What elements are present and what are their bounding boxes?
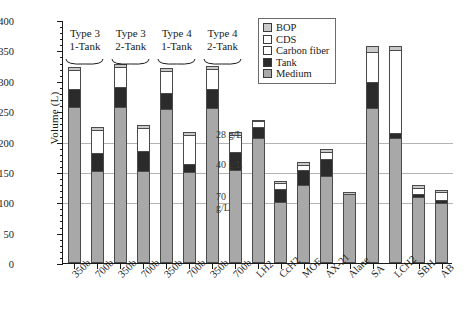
bar-segment-carbon-fiber — [390, 51, 401, 135]
y-axis-minor-tick — [60, 252, 64, 253]
bar-segment-tank — [115, 88, 126, 108]
bar-segment-medium — [436, 204, 447, 262]
x-axis-label-16: AB — [438, 262, 456, 280]
bar-segment-tank — [69, 90, 80, 108]
legend-swatch-icon — [263, 58, 272, 67]
group-title-line1: Type 4 — [208, 27, 238, 39]
y-axis-minor-tick — [60, 124, 64, 125]
y-axis-label: Volume (L) — [48, 58, 60, 178]
bar-segment-medium — [138, 172, 149, 262]
bar-segment-carbon-fiber — [184, 136, 195, 164]
legend-item-tank[interactable]: Tank — [263, 57, 329, 69]
legend-label: Carbon fiber — [276, 45, 329, 57]
bar-segment-medium — [253, 139, 264, 262]
bar-sa-13[interactable] — [366, 46, 379, 263]
y-axis-minor-tick — [60, 221, 64, 222]
y-axis-tick-mark — [57, 112, 63, 113]
bar-segment-medium — [298, 186, 309, 262]
density-annotation-28-g-L: 28 g/L — [216, 130, 242, 141]
y-axis-minor-tick — [60, 136, 64, 137]
bar-mof-10[interactable] — [297, 162, 310, 263]
y-axis-minor-tick — [60, 106, 64, 107]
y-axis-minor-tick — [60, 100, 64, 101]
legend-item-bop[interactable]: BOP — [263, 22, 329, 34]
bar-segment-tank — [321, 160, 332, 177]
bar-segment-carbon-fiber — [207, 70, 218, 90]
bar-segment-tank — [138, 152, 149, 172]
y-axis-tick-label: 200 — [0, 137, 14, 148]
bar-350b-0[interactable] — [68, 67, 81, 263]
bar-segment-medium — [275, 203, 286, 262]
y-axis-minor-tick — [60, 191, 64, 192]
y-axis-tick-mark — [57, 264, 63, 265]
bar-segment-medium — [115, 108, 126, 262]
group-brace-0 — [65, 54, 104, 63]
y-axis-minor-tick — [60, 70, 64, 71]
bar-cch2-9[interactable] — [274, 181, 287, 263]
bar-350b-4[interactable] — [160, 68, 173, 263]
y-axis-minor-tick — [60, 161, 64, 162]
bar-segment-medium — [69, 108, 80, 262]
bar-lh2-8[interactable] — [252, 120, 265, 263]
bar-700b-3[interactable] — [137, 125, 150, 263]
bar-segment-tank — [275, 190, 286, 203]
bar-segment-carbon-fiber — [253, 122, 264, 129]
y-axis-tick-mark — [57, 21, 63, 22]
bar-segment-medium — [230, 171, 241, 262]
bar-350b-2[interactable] — [114, 64, 127, 263]
y-axis-tick-mark — [57, 143, 63, 144]
y-axis-minor-tick — [60, 94, 64, 95]
bar-segment-medium — [184, 173, 195, 262]
bar-segment-carbon-fiber — [115, 68, 126, 87]
bar-segment-tank — [161, 94, 172, 110]
bar-segment-medium — [344, 195, 355, 262]
bar-700b-1[interactable] — [91, 127, 104, 263]
legend-item-carbon-fiber[interactable]: Carbon fiber — [263, 45, 329, 57]
x-axis-label-13: SA — [369, 262, 386, 279]
bar-ab-16[interactable] — [435, 190, 448, 264]
y-axis-minor-tick — [60, 240, 64, 241]
y-axis-minor-tick — [60, 64, 64, 65]
y-axis-minor-tick — [60, 179, 64, 180]
bar-segment-medium — [413, 198, 424, 262]
y-axis-tick-mark — [57, 82, 63, 83]
density-annotation-70-g-L: 70 g/L — [216, 192, 238, 213]
legend: BOPCDSCarbon fiberTankMedium — [258, 18, 336, 84]
y-axis-minor-tick — [60, 130, 64, 131]
bar-segment-carbon-fiber — [321, 153, 332, 160]
y-axis-tick-label: 400 — [0, 16, 14, 27]
bar-700b-5[interactable] — [183, 132, 196, 263]
bar-segment-tank — [253, 128, 264, 139]
y-axis-tick-label: 350 — [0, 46, 14, 57]
bar-segment-medium — [390, 139, 401, 262]
y-axis-tick-mark — [57, 203, 63, 204]
legend-item-cds[interactable]: CDS — [263, 34, 329, 46]
bar-segment-carbon-fiber — [92, 131, 103, 154]
group-title-line2: 2-Tank — [207, 40, 238, 52]
legend-swatch-icon — [263, 23, 272, 32]
y-axis-minor-tick — [60, 57, 64, 58]
y-axis-minor-tick — [60, 155, 64, 156]
bar-lch2-14[interactable] — [389, 46, 402, 263]
y-axis-tick-label: 50 — [0, 228, 14, 239]
y-axis-minor-tick — [60, 149, 64, 150]
y-axis-minor-tick — [60, 185, 64, 186]
y-axis-minor-tick — [60, 258, 64, 259]
group-brace-1 — [111, 54, 150, 63]
y-axis-minor-tick — [60, 167, 64, 168]
legend-swatch-icon — [263, 46, 272, 55]
bar-ax-21-11[interactable] — [320, 149, 333, 263]
legend-label: CDS — [276, 34, 296, 46]
y-axis-minor-tick — [60, 209, 64, 210]
legend-label: Medium — [276, 68, 312, 80]
bar-segment-tank — [298, 171, 309, 186]
y-axis-minor-tick — [60, 215, 64, 216]
y-axis-minor-tick — [60, 197, 64, 198]
bar-sbh-15[interactable] — [412, 185, 425, 263]
legend-item-medium[interactable]: Medium — [263, 68, 329, 80]
figure-root: Volume (L) 050100150200250300350400 Type… — [0, 0, 470, 327]
bar-segment-tank — [367, 83, 378, 109]
y-axis-tick-label: 100 — [0, 198, 14, 209]
y-axis-tick-label: 150 — [0, 167, 14, 178]
bar-segment-medium — [92, 172, 103, 262]
